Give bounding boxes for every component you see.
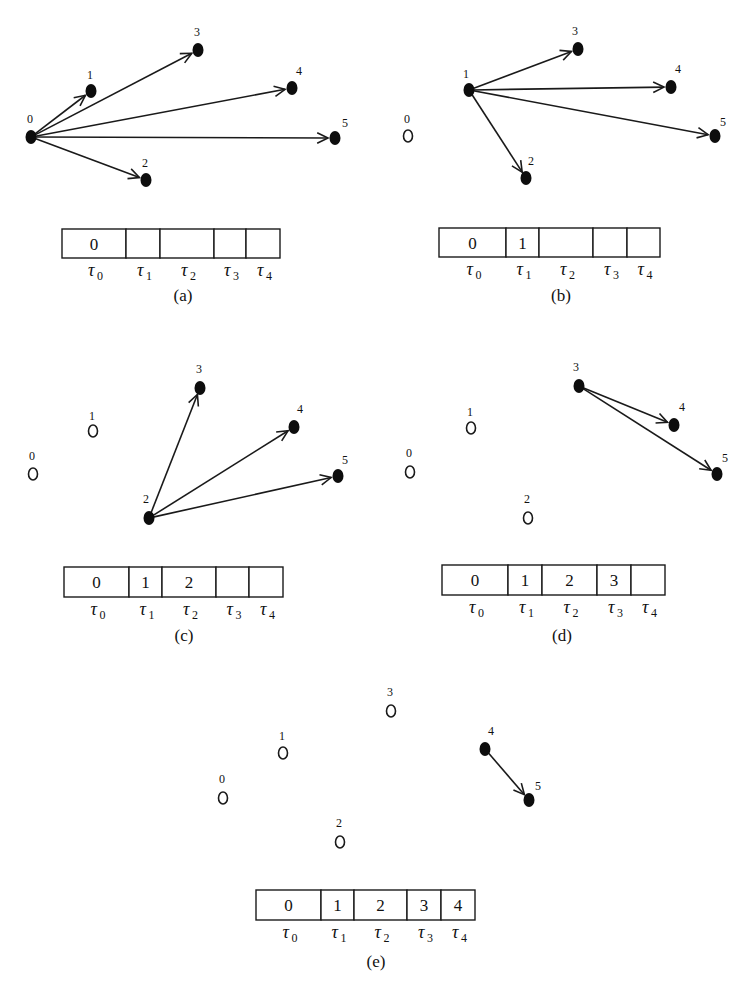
filled-node-icon — [669, 418, 680, 432]
filled-node-icon — [573, 42, 584, 56]
edge-1-to-3 — [472, 50, 572, 89]
hollow-node-icon — [279, 747, 288, 759]
node-2: 2 — [336, 816, 345, 848]
hollow-node-icon — [467, 422, 476, 434]
slot-value: 0 — [468, 234, 477, 253]
tau-subscript: 1 — [526, 268, 532, 282]
filled-node-icon — [524, 793, 535, 807]
tau-subscript: 4 — [266, 269, 272, 283]
tau-label: τ — [638, 259, 645, 279]
node-label: 4 — [675, 62, 681, 76]
node-label: 1 — [463, 67, 469, 81]
filled-node-icon — [464, 83, 475, 97]
tau-subscript: 4 — [647, 268, 653, 282]
edge-2-to-3 — [150, 395, 198, 516]
node-label: 4 — [296, 64, 302, 78]
time-slot-cell — [246, 229, 280, 258]
filled-node-icon — [666, 80, 677, 94]
tau-label: τ — [227, 599, 234, 619]
arrowhead-icon — [276, 431, 288, 441]
slot-value: 3 — [420, 896, 429, 915]
filled-node-icon — [521, 171, 532, 185]
panel-caption: (d) — [552, 626, 572, 645]
node-label: 1 — [279, 729, 285, 743]
node-label: 2 — [336, 816, 342, 830]
filled-node-icon — [193, 43, 204, 57]
node-4: 4 — [287, 64, 303, 95]
tau-label: τ — [140, 599, 147, 619]
hollow-node-icon — [387, 705, 396, 717]
tau-label: τ — [418, 922, 425, 942]
node-label: 3 — [572, 24, 578, 38]
slot-value: 1 — [333, 896, 342, 915]
time-slot-table: 0τ01τ1τ2τ3τ4 — [439, 228, 660, 282]
tau-label: τ — [469, 597, 476, 617]
time-slot-cell — [249, 567, 283, 597]
filled-node-icon — [26, 130, 37, 144]
tau-label: τ — [560, 259, 567, 279]
slot-value: 2 — [376, 896, 385, 915]
tau-label: τ — [467, 259, 474, 279]
node-4: 4 — [480, 724, 495, 756]
tau-subscript: 0 — [476, 268, 482, 282]
node-label: 3 — [196, 362, 202, 376]
slot-value: 3 — [610, 571, 619, 590]
edge-0-to-5 — [34, 133, 328, 143]
filled-node-icon — [710, 129, 721, 143]
node-1: 1 — [86, 68, 97, 98]
tau-label: τ — [608, 597, 615, 617]
node-label: 2 — [528, 154, 534, 168]
time-slot-table: 0τ01τ12τ23τ3τ4 — [442, 565, 665, 620]
node-label: 0 — [27, 112, 33, 126]
tau-label: τ — [332, 922, 339, 942]
tau-label: τ — [91, 599, 98, 619]
node-label: 4 — [488, 724, 494, 738]
filled-node-icon — [330, 131, 341, 145]
arrowhead-icon — [512, 160, 522, 172]
time-slot-cell — [160, 229, 214, 258]
filled-node-icon — [144, 511, 155, 525]
tau-label: τ — [88, 260, 95, 280]
node-5: 5 — [710, 115, 727, 143]
panel-caption: (b) — [551, 286, 571, 305]
filled-node-icon — [712, 467, 723, 481]
edge-4-to-5 — [487, 751, 524, 794]
node-0: 0 — [26, 112, 37, 144]
tau-subscript: 0 — [97, 269, 103, 283]
tau-label: τ — [283, 922, 290, 942]
edge-1-to-2 — [471, 93, 523, 173]
node-label: 1 — [89, 409, 95, 423]
node-label: 2 — [524, 492, 530, 506]
hollow-node-icon — [219, 792, 228, 804]
tau-subscript: 4 — [651, 606, 657, 620]
slot-value: 0 — [90, 235, 99, 254]
node-4: 4 — [669, 400, 686, 432]
tau-subscript: 1 — [341, 931, 347, 945]
edge-2-to-4 — [152, 431, 289, 517]
node-label: 5 — [342, 116, 348, 130]
hollow-node-icon — [29, 468, 38, 480]
node-1: 1 — [279, 729, 288, 759]
edge-1-to-5 — [472, 91, 708, 138]
edge-2-to-5 — [152, 475, 331, 518]
node-label: 5 — [342, 453, 348, 467]
time-slot-cell — [216, 567, 249, 597]
node-label: 0 — [406, 446, 412, 460]
tau-label: τ — [564, 597, 571, 617]
node-label: 0 — [29, 449, 35, 463]
node-3: 3 — [193, 25, 204, 57]
filled-node-icon — [289, 420, 300, 434]
tau-label: τ — [260, 599, 267, 619]
panel-a: 0123450τ0τ1τ2τ3τ4(a) — [26, 25, 349, 305]
time-slot-cell — [539, 228, 593, 257]
tau-subscript: 0 — [478, 606, 484, 620]
panel-caption: (e) — [367, 952, 386, 971]
time-slot-table: 0τ01τ12τ2τ3τ4 — [64, 567, 283, 622]
node-label: 1 — [467, 405, 473, 419]
node-5: 5 — [712, 451, 729, 481]
tau-subscript: 3 — [236, 608, 242, 622]
tau-subscript: 1 — [528, 606, 534, 620]
tau-subscript: 4 — [269, 608, 275, 622]
node-4: 4 — [666, 62, 682, 94]
panel-e: 0123450τ01τ12τ23τ34τ4(e) — [219, 685, 542, 971]
